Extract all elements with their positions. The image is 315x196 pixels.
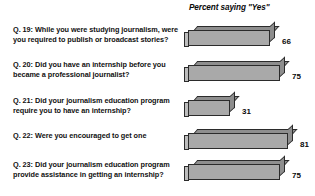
question-label: Q. 20: Did you have an internship before… [13, 60, 185, 81]
bar-value-label: 75 [292, 72, 301, 81]
question-label: Q. 23: Did your journalism education pro… [13, 160, 185, 181]
bar-value-label: 75 [292, 171, 301, 180]
question-label: Q. 21: Did your journalism education pro… [13, 96, 185, 117]
chart-title: Percent saying "Yes" [189, 3, 270, 12]
bar-front-face [188, 30, 270, 46]
bar-front-face [188, 164, 280, 180]
bar-front-face [188, 65, 280, 81]
bar-side-face [280, 56, 285, 77]
bar-side-face [288, 124, 293, 145]
bar-front-face [188, 100, 230, 116]
bar-front-face [188, 133, 288, 149]
bar-value-label: 66 [282, 37, 291, 46]
question-label: Q. 19: While you were studying journalis… [13, 25, 185, 46]
question-label: Q. 22: Were you encouraged to get one [13, 131, 185, 141]
bar-side-face [270, 21, 275, 42]
bar-value-label: 31 [242, 107, 251, 116]
bar-value-label: 81 [300, 140, 309, 149]
survey-bar-chart: Percent saying "Yes" Q. 19: While you we… [0, 0, 315, 196]
bar-side-face [280, 155, 285, 176]
bar-side-face [230, 91, 235, 112]
